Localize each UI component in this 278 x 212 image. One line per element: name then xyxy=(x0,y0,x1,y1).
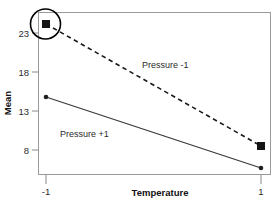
series-label-pressure-plus1: Pressure +1 xyxy=(60,129,109,139)
y-tick-label-18: 18 xyxy=(18,67,29,78)
series-label-pressure-minus1: Pressure -1 xyxy=(142,60,189,70)
y-axis-title: Mean xyxy=(2,91,13,115)
series-marker-pressure-minus1-right xyxy=(257,142,265,150)
series-marker-pressure-plus1-left xyxy=(44,95,49,100)
x-axis-ticks xyxy=(46,175,261,185)
y-axis-ticks xyxy=(32,33,39,150)
x-axis-title: Temperature xyxy=(132,187,189,198)
y-tick-label-23: 23 xyxy=(18,28,29,39)
plot-frame xyxy=(39,13,271,175)
y-tick-label-13: 13 xyxy=(18,106,29,117)
series-line-pressure-minus1 xyxy=(46,24,261,146)
series-marker-pressure-plus1-right xyxy=(259,166,264,171)
x-tick-label-minus1: -1 xyxy=(42,186,50,197)
series-marker-pressure-minus1-left xyxy=(42,20,50,28)
y-tick-label-8: 8 xyxy=(24,145,29,156)
x-tick-label-plus1: 1 xyxy=(258,186,263,197)
interaction-plot: 23 18 13 8 -1 1 Mean Temperature Pressur… xyxy=(0,0,278,212)
chart-canvas: 23 18 13 8 -1 1 Mean Temperature Pressur… xyxy=(0,0,278,212)
